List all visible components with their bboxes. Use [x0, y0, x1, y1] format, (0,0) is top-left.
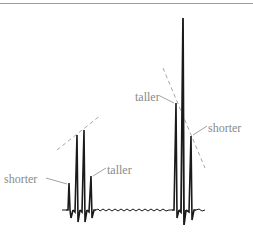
right-shorter-pointer — [193, 126, 207, 135]
label-right-shorter: shorter — [208, 122, 241, 134]
left-dashed-guide — [57, 115, 101, 150]
left-shorter-pointer — [46, 178, 67, 184]
label-right-taller: taller — [135, 91, 160, 103]
left-multiplet — [66, 130, 96, 222]
right-taller-pointer — [160, 96, 174, 103]
spectrum-plot — [0, 0, 253, 235]
right-multiplet — [172, 18, 196, 225]
label-left-shorter: shorter — [4, 173, 37, 185]
label-left-taller: taller — [107, 164, 132, 176]
left-taller-pointer — [93, 168, 106, 176]
spectrum-figure: shorter taller taller shorter — [0, 0, 253, 235]
